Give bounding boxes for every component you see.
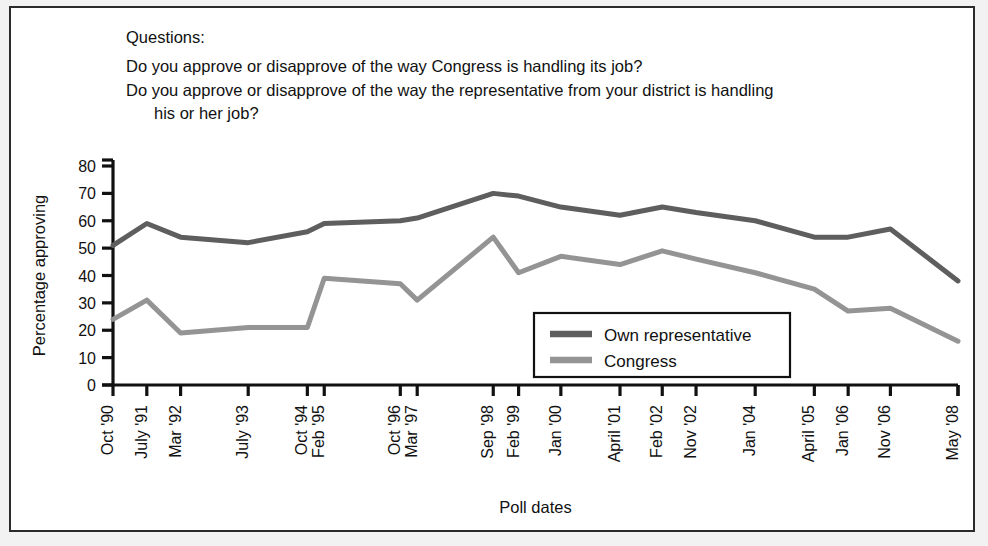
legend-label[interactable]: Congress [604, 352, 677, 371]
x-tick-label: April '05 [800, 405, 817, 462]
y-tick-labels: 01020304050607080 [78, 158, 96, 394]
legend-label[interactable]: Own representative [604, 326, 751, 345]
axis-titles: Poll datesPercentage approving [30, 195, 572, 516]
y-tick-label: 0 [87, 377, 96, 394]
y-tick-label: 40 [78, 268, 96, 285]
x-tick-label: July '91 [133, 405, 150, 459]
x-tick-label: Oct '96 [386, 405, 403, 455]
y-tick-label: 10 [78, 350, 96, 367]
y-tick-label: 70 [78, 185, 96, 202]
chart-axes [102, 160, 958, 396]
x-tick-label: Feb '02 [648, 405, 665, 458]
x-tick-label: Mar '97 [403, 405, 420, 458]
x-tick-label: Jan '00 [547, 405, 564, 456]
x-tick-label: April '01 [606, 405, 623, 462]
x-tick-label: Oct '94 [293, 405, 310, 455]
x-tick-label: Jan '04 [741, 405, 758, 456]
y-tick-label: 80 [78, 158, 96, 175]
x-tick-label: Jan '06 [834, 405, 851, 456]
x-tick-label: Feb '95 [310, 405, 327, 458]
x-tick-label: Nov '02 [682, 405, 699, 459]
x-tick-label: May '08 [944, 405, 961, 461]
y-tick-label: 60 [78, 213, 96, 230]
y-tick-label: 50 [78, 240, 96, 257]
page-background: Questions: Do you approve or disapprove … [0, 0, 988, 546]
x-tick-label: Sep '98 [479, 405, 496, 459]
x-tick-label: Nov '06 [876, 405, 893, 459]
line-chart: Oct '90July '91Mar '92July '93Oct '94Feb… [11, 8, 977, 534]
y-tick-label: 20 [78, 322, 96, 339]
x-tick-label: July '93 [234, 405, 251, 459]
x-tick-label: Oct '90 [99, 405, 116, 455]
chart-svg: Oct '90July '91Mar '92July '93Oct '94Feb… [11, 8, 977, 534]
x-tick-label: Feb '99 [505, 405, 522, 458]
x-tick-label: Mar '92 [167, 405, 184, 458]
y-tick-label: 30 [78, 295, 96, 312]
figure-frame: Questions: Do you approve or disapprove … [9, 6, 975, 532]
x-tick-labels: Oct '90July '91Mar '92July '93Oct '94Feb… [99, 405, 961, 462]
y-axis-title: Percentage approving [30, 195, 48, 356]
x-axis-title: Poll dates [499, 498, 571, 516]
chart-legend[interactable]: Own representativeCongress [534, 313, 790, 377]
